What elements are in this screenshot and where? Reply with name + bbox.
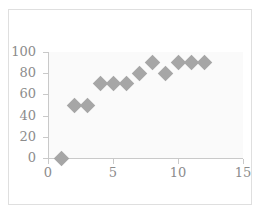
y-tick-label: 80	[0, 66, 36, 79]
y-tick-label: 0	[0, 151, 36, 164]
y-axis-line	[48, 52, 49, 159]
y-tick-mark	[43, 94, 48, 95]
x-tick-label: 5	[98, 166, 128, 179]
x-axis-line	[48, 158, 243, 159]
x-tick-label: 10	[163, 166, 193, 179]
x-tick-mark	[178, 159, 179, 164]
y-tick-label: 60	[0, 87, 36, 100]
y-tick-label: 100	[0, 45, 36, 58]
chart-title	[0, 0, 269, 3]
x-tick-mark	[113, 159, 114, 164]
y-tick-mark	[43, 73, 48, 74]
y-tick-label: 20	[0, 130, 36, 143]
y-tick-mark	[43, 116, 48, 117]
y-tick-mark	[43, 52, 48, 53]
x-tick-label: 0	[33, 166, 63, 179]
y-tick-mark	[43, 137, 48, 138]
x-tick-label: 15	[228, 166, 258, 179]
x-tick-mark	[48, 159, 49, 164]
y-tick-label: 40	[0, 109, 36, 122]
x-tick-mark	[243, 159, 244, 164]
scatter-chart: 020406080100 051015	[0, 0, 269, 215]
